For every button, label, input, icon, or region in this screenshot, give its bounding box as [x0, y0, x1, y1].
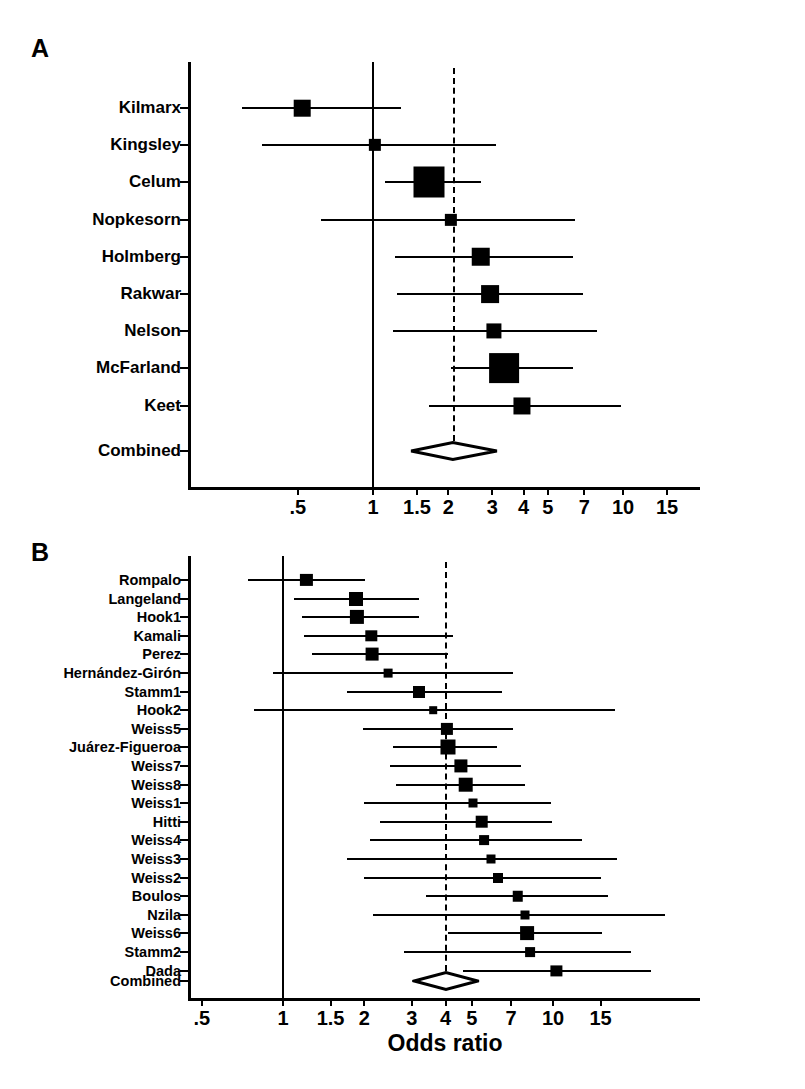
x-tick-label: 15	[656, 496, 678, 519]
summary-dashed-line	[453, 68, 455, 451]
x-tick-label: 7	[579, 496, 590, 519]
panel-letter-b: B	[31, 540, 49, 565]
point-estimate-box	[489, 353, 519, 383]
point-estimate-box	[551, 965, 562, 976]
x-tick-label: 1	[277, 1007, 288, 1030]
y-tick	[180, 784, 189, 786]
study-label: Holmberg	[102, 247, 181, 267]
confidence-interval	[304, 635, 452, 637]
x-tick	[282, 998, 284, 1006]
confidence-interval	[347, 858, 617, 860]
x-tick	[411, 998, 413, 1006]
combined-diamond	[412, 971, 480, 992]
x-tick	[297, 487, 299, 495]
y-tick-combined	[180, 980, 189, 982]
x-tick	[600, 998, 602, 1006]
point-estimate-box	[441, 723, 453, 735]
y-tick	[180, 877, 189, 879]
study-label: Nzila	[147, 907, 181, 923]
x-tick-label: 1.5	[403, 496, 431, 519]
combined-label: Combined	[98, 441, 181, 461]
confidence-interval	[364, 802, 550, 804]
x-tick	[666, 487, 668, 495]
point-estimate-box	[349, 592, 363, 606]
confidence-interval	[370, 839, 582, 841]
x-tick-label: 4	[440, 1007, 451, 1030]
point-estimate-box	[493, 873, 503, 883]
x-tick-label: 7	[506, 1007, 517, 1030]
x-tick-label: 2	[443, 496, 454, 519]
y-tick	[180, 858, 189, 860]
study-label: Kilmarx	[119, 98, 181, 118]
y-tick	[180, 970, 189, 972]
study-label: Weiss5	[131, 721, 181, 737]
reference-line	[282, 556, 284, 998]
confidence-interval	[373, 914, 665, 916]
point-estimate-box	[458, 777, 473, 792]
x-tick	[583, 487, 585, 495]
x-tick	[330, 998, 332, 1006]
x-tick	[416, 487, 418, 495]
point-estimate-box	[369, 139, 381, 151]
x-tick	[363, 998, 365, 1006]
point-estimate-box	[384, 669, 393, 678]
combined-label: Combined	[110, 973, 181, 989]
study-label: Hook1	[137, 609, 181, 625]
y-tick	[180, 691, 189, 693]
panel-letter-a: A	[31, 36, 49, 61]
panel-a: A.511.5234571015KilmarxKingsleyCelumNopk…	[0, 0, 805, 535]
study-label: Hook2	[137, 702, 181, 718]
point-estimate-box	[482, 285, 500, 303]
study-label: Weiss2	[131, 870, 181, 886]
study-label: Stamm2	[125, 944, 181, 960]
study-label: Weiss1	[131, 795, 181, 811]
point-estimate-box	[429, 706, 437, 714]
x-tick	[447, 487, 449, 495]
y-tick	[180, 914, 189, 916]
x-tick-label: .5	[193, 1007, 210, 1030]
y-tick	[180, 746, 189, 748]
confidence-interval	[363, 728, 513, 730]
y-tick	[180, 579, 189, 581]
y-tick	[180, 181, 189, 183]
confidence-interval	[404, 951, 632, 953]
study-label: Weiss8	[131, 777, 181, 793]
y-tick	[180, 672, 189, 674]
y-tick	[180, 330, 189, 332]
y-tick	[180, 367, 189, 369]
study-label: McFarland	[96, 358, 181, 378]
x-tick	[552, 998, 554, 1006]
study-label: Juárez-Figueroa	[69, 739, 181, 755]
x-tick-label: 5	[466, 1007, 477, 1030]
point-estimate-box	[365, 630, 376, 641]
x-tick-label: 15	[589, 1007, 611, 1030]
x-tick	[523, 487, 525, 495]
point-estimate-box	[350, 610, 364, 624]
x-tick	[445, 998, 447, 1006]
x-tick	[510, 998, 512, 1006]
study-label: Hitti	[153, 814, 181, 830]
x-tick-label: 4	[518, 496, 529, 519]
y-tick	[180, 107, 189, 109]
y-tick	[180, 616, 189, 618]
y-tick	[180, 728, 189, 730]
x-tick	[471, 998, 473, 1006]
study-label: Weiss3	[131, 851, 181, 867]
x-tick-label: 2	[359, 1007, 370, 1030]
y-tick	[180, 895, 189, 897]
y-tick	[180, 144, 189, 146]
y-tick	[180, 839, 189, 841]
point-estimate-box	[445, 213, 457, 225]
y-tick	[180, 219, 189, 221]
point-estimate-box	[414, 167, 445, 198]
point-estimate-box	[521, 910, 530, 919]
point-estimate-box	[441, 740, 456, 755]
study-label: Rakwar	[121, 284, 181, 304]
study-label: Nopkesorn	[92, 210, 181, 230]
study-label: Celum	[129, 172, 181, 192]
x-tick	[622, 487, 624, 495]
y-tick	[180, 405, 189, 407]
point-estimate-box	[520, 926, 534, 940]
x-tick	[547, 487, 549, 495]
y-tick	[180, 802, 189, 804]
